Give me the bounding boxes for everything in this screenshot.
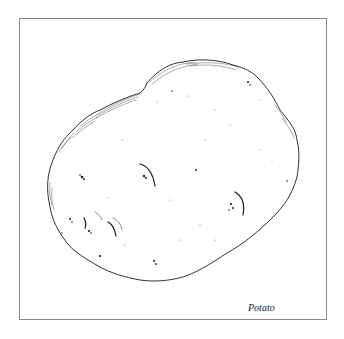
- potato-outline: [48, 60, 299, 281]
- figure-caption: Potato: [248, 302, 275, 313]
- potato-illustration: [0, 0, 344, 339]
